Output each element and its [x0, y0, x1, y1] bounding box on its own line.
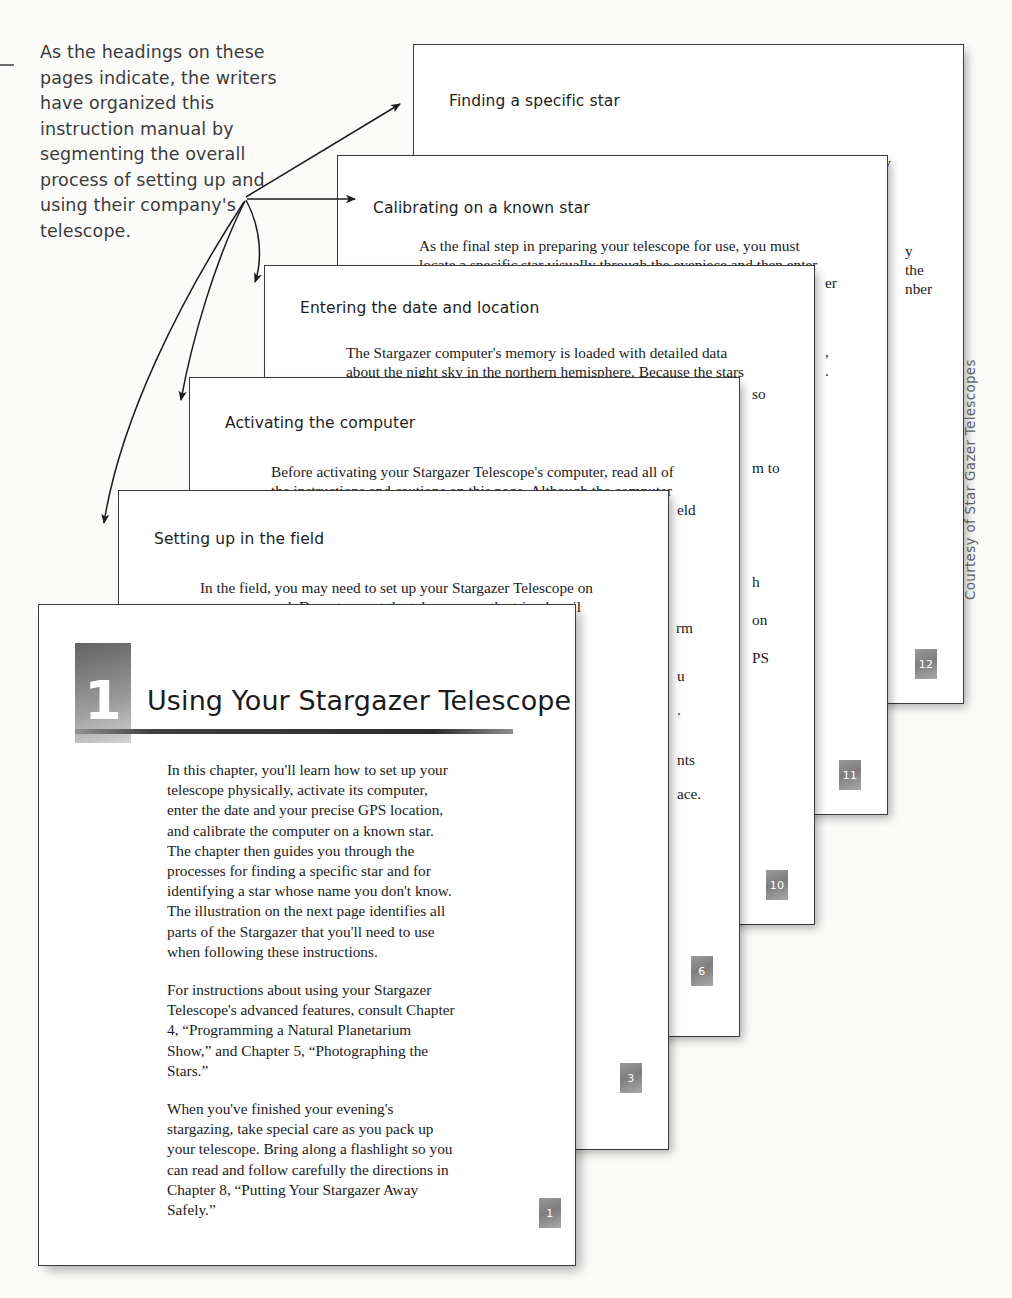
- page-fragment: m to: [752, 458, 780, 478]
- page-number-chip: 6: [691, 956, 713, 986]
- page-heading: Activating the computer: [225, 414, 415, 432]
- page-fragment: u: [677, 666, 685, 686]
- page-heading: Entering the date and location: [300, 299, 539, 317]
- chapter-opener-sheet[interactable]: 1 Using Your Stargazer Telescope In this…: [38, 604, 576, 1266]
- page-fragment-rm: rm: [676, 618, 693, 638]
- photo-credit-text: Courtesy of Star Gazer Telescopes: [962, 359, 978, 600]
- page-fragment: the: [905, 260, 924, 280]
- chapter-paragraph: When you've finished your evening's star…: [167, 1099, 457, 1220]
- left-margin-dash: [0, 64, 14, 66]
- page-number-chip: 3: [620, 1063, 642, 1093]
- page-fragment: er: [825, 273, 837, 293]
- page-heading: Finding a specific star: [449, 92, 620, 110]
- chapter-title: Using Your Stargazer Telescope: [147, 685, 571, 716]
- chapter-number: 1: [75, 643, 131, 743]
- chapter-body: In this chapter, you'll learn how to set…: [167, 760, 457, 1238]
- page-fragment: on: [752, 610, 767, 630]
- page-fragment: .: [825, 361, 829, 381]
- page-fragment: eld: [677, 500, 696, 520]
- page-fragment: y: [905, 241, 913, 261]
- page-fragment: .: [677, 700, 681, 720]
- chapter-title-rule: [75, 729, 513, 734]
- page-fragment: so: [752, 384, 766, 404]
- page-fragment: ace.: [677, 784, 701, 804]
- page-heading: Calibrating on a known star: [373, 199, 590, 217]
- page-number-chip: 1: [539, 1198, 561, 1228]
- page-number-chip: 12: [915, 649, 937, 679]
- chapter-paragraph: In this chapter, you'll learn how to set…: [167, 760, 457, 962]
- page-fragment: ,: [825, 342, 829, 362]
- page-body-line-1: In the field, you may need to set up you…: [200, 578, 593, 598]
- page-number-chip: 10: [766, 870, 788, 900]
- page-body-line-1: The Stargazer computer's memory is loade…: [346, 343, 727, 363]
- figure-caption: As the headings on these pages indicate,…: [40, 40, 290, 244]
- page-heading: Setting up in the field: [154, 530, 324, 548]
- chapter-paragraph: For instructions about using your Starga…: [167, 980, 457, 1081]
- page-number-chip: 11: [839, 760, 861, 790]
- page-body-line-1: As the final step in preparing your tele…: [419, 236, 800, 256]
- page-fragment: PS: [752, 648, 769, 668]
- page-fragment: nber: [905, 279, 932, 299]
- photo-credit: Courtesy of Star Gazer Telescopes: [962, 600, 992, 920]
- page-body-line-1: Before activating your Stargazer Telesco…: [271, 462, 674, 482]
- page-fragment: nts: [677, 750, 695, 770]
- page-fragment: h: [752, 572, 760, 592]
